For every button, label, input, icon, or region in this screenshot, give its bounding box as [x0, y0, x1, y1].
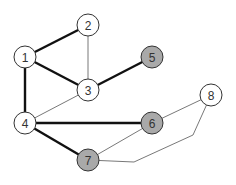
node-label: 8 — [208, 89, 215, 103]
node-layer: 12345678 — [14, 14, 222, 171]
node-8: 8 — [200, 84, 222, 106]
node-label: 2 — [85, 19, 92, 33]
node-7: 7 — [77, 149, 99, 171]
edge-layer — [25, 25, 211, 162]
node-5: 5 — [141, 46, 163, 68]
node-label: 7 — [85, 154, 92, 168]
node-label: 5 — [149, 51, 156, 65]
node-label: 3 — [85, 84, 92, 98]
node-4: 4 — [14, 112, 36, 134]
node-2: 2 — [77, 14, 99, 36]
node-1: 1 — [14, 46, 36, 68]
node-label: 4 — [22, 117, 29, 131]
node-label: 6 — [149, 117, 156, 131]
graph-diagram: 12345678 — [0, 0, 236, 185]
node-3: 3 — [77, 79, 99, 101]
node-label: 1 — [22, 51, 29, 65]
node-6: 6 — [141, 112, 163, 134]
